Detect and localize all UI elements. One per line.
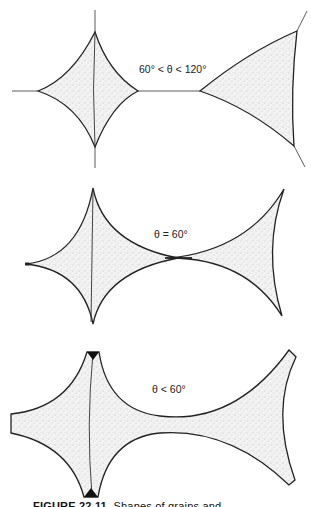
cusp-particle-left (26, 188, 178, 324)
grain-shape-diagram (0, 0, 311, 507)
three-grain-particle (200, 31, 297, 146)
panel-top-label: 60° < θ < 120° (139, 63, 206, 75)
panel-top (12, 10, 307, 168)
cusp-particle-right (170, 189, 284, 316)
figure-caption-text: Shapes of grains and ... (113, 500, 234, 507)
figure-number: FIGURE 22.11 (33, 500, 107, 507)
continuous-second-phase (11, 350, 296, 497)
four-grain-particle (38, 32, 138, 147)
panel-middle-label: θ = 60° (154, 228, 188, 240)
boundary-line-lower-right (294, 146, 305, 167)
boundary-line-upper-right (297, 11, 307, 31)
left-tip-mark (25, 263, 29, 266)
panel-bottom-label: θ < 60° (152, 383, 186, 395)
panel-middle (25, 188, 284, 324)
panel-bottom (11, 350, 296, 497)
figure-caption: FIGURE 22.11 Shapes of grains and ... (33, 500, 234, 507)
